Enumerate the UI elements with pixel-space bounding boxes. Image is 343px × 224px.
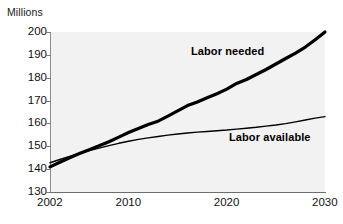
x-axis-line — [50, 192, 326, 193]
x-tick-label: 2010 — [116, 196, 142, 208]
labor-supply-demand-chart: Millions 130140150160170180190200 200220… — [0, 0, 343, 224]
y-tick-label: 160 — [7, 117, 47, 129]
series-label-labor-needed: Labor needed — [191, 45, 264, 57]
y-tick-mark — [46, 101, 51, 102]
series-label-labor-available: Labor available — [229, 131, 311, 143]
y-tick-label: 180 — [7, 72, 47, 84]
x-tick-label: 2020 — [214, 196, 240, 208]
y-tick-label: 170 — [7, 95, 47, 107]
y-tick-label: 190 — [7, 49, 47, 61]
y-tick-label: 140 — [7, 163, 47, 175]
y-tick-label: 200 — [7, 26, 47, 38]
y-tick-mark — [46, 146, 51, 147]
y-tick-label: 150 — [7, 140, 47, 152]
x-tick-label: 2002 — [37, 196, 63, 208]
y-tick-mark — [46, 192, 51, 193]
y-tick-mark — [46, 169, 51, 170]
y-tick-mark — [46, 78, 51, 79]
y-tick-mark — [46, 32, 51, 33]
y-tick-mark — [46, 123, 51, 124]
plot-area — [50, 32, 325, 192]
x-tick-label: 2030 — [312, 196, 338, 208]
y-tick-mark — [46, 55, 51, 56]
y-axis-unit-label: Millions — [7, 6, 43, 18]
